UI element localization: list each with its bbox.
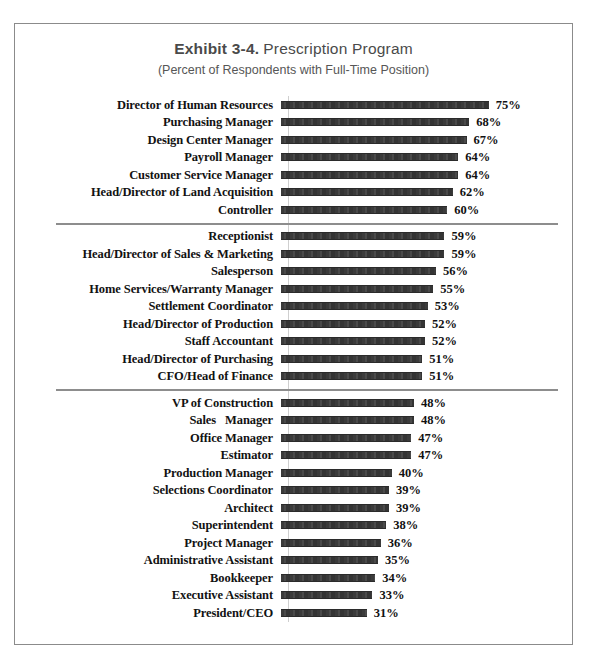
- bar-row: Design Center Manager67%: [15, 131, 572, 149]
- bar-track: 48%: [281, 412, 572, 430]
- bar-category-label: CFO/Head of Finance: [15, 370, 281, 383]
- bar-category-label: Customer Service Manager: [15, 169, 281, 182]
- bar-category-label: Settlement Coordinator: [15, 300, 281, 313]
- bar-value-label: 38%: [393, 519, 418, 532]
- bar-category-label: Superintendent: [15, 519, 281, 532]
- bar-row: Salesperson56%: [15, 263, 572, 281]
- bar-value-label: 36%: [388, 537, 413, 550]
- bar: [281, 188, 453, 196]
- bar: [281, 451, 411, 459]
- bar: [281, 372, 422, 380]
- bar-category-label: Executive Assistant: [15, 589, 281, 602]
- bar-category-label: Architect: [15, 502, 281, 515]
- bar-value-label: 40%: [399, 467, 424, 480]
- bar-value-label: 48%: [421, 397, 446, 410]
- bar-category-label: Estimator: [15, 449, 281, 462]
- bar-value-label: 47%: [418, 432, 443, 445]
- bar-track: 64%: [281, 149, 572, 167]
- bar-value-label: 59%: [451, 248, 476, 261]
- bar-row: Estimator47%: [15, 447, 572, 465]
- chart-subtitle: (Percent of Respondents with Full-Time P…: [15, 63, 572, 77]
- bar-row: Controller60%: [15, 201, 572, 219]
- bar: [281, 556, 378, 564]
- bar: [281, 539, 381, 547]
- bar-track: 40%: [281, 464, 572, 482]
- bar-category-label: Head/Director of Land Acquisition: [15, 186, 281, 199]
- bar: [281, 574, 375, 582]
- bar-row: Executive Assistant33%: [15, 587, 572, 605]
- bar-track: 60%: [281, 201, 572, 219]
- bar: [281, 171, 458, 179]
- bar-track: 64%: [281, 166, 572, 184]
- bar: [281, 434, 411, 442]
- bar-row: Production Manager40%: [15, 464, 572, 482]
- bar-track: 62%: [281, 184, 572, 202]
- bar-track: 51%: [281, 368, 572, 386]
- bar-category-label: Home Services/Warranty Manager: [15, 283, 281, 296]
- bar-category-label: Design Center Manager: [15, 134, 281, 147]
- bar-row: Head/Director of Production52%: [15, 315, 572, 333]
- bar-row: CFO/Head of Finance51%: [15, 368, 572, 386]
- bar-category-label: Production Manager: [15, 467, 281, 480]
- bar-category-label: Bookkeeper: [15, 572, 281, 585]
- bar-row: Staff Accountant52%: [15, 333, 572, 351]
- bar-row: Head/Director of Land Acquisition62%: [15, 184, 572, 202]
- chart-title: Exhibit 3-4.Prescription Program: [15, 40, 572, 58]
- bar-track: 67%: [281, 131, 572, 149]
- bar-category-label: Sales Manager: [15, 414, 281, 427]
- bar-row: Selections Coordinator39%: [15, 482, 572, 500]
- bar-category-label: VP of Construction: [15, 397, 281, 410]
- group-separator-line: [15, 385, 572, 394]
- bar-category-label: Receptionist: [15, 230, 281, 243]
- bar-category-label: Administrative Assistant: [15, 554, 281, 567]
- bar-row: Office Manager47%: [15, 429, 572, 447]
- bar-value-label: 68%: [476, 116, 501, 129]
- bar-category-label: Purchasing Manager: [15, 116, 281, 129]
- bar: [281, 136, 467, 144]
- bar-value-label: 51%: [429, 353, 454, 366]
- bar: [281, 302, 428, 310]
- bar-category-label: Project Manager: [15, 537, 281, 550]
- bar-category-label: Director of Human Resources: [15, 99, 281, 112]
- bar-value-label: 31%: [374, 607, 399, 620]
- bar-row: Settlement Coordinator53%: [15, 298, 572, 316]
- bar-value-label: 52%: [432, 335, 457, 348]
- bar: [281, 267, 436, 275]
- bar-row: Head/Director of Sales & Marketing59%: [15, 245, 572, 263]
- bar: [281, 469, 392, 477]
- bar-track: 59%: [281, 245, 572, 263]
- bar-category-label: Office Manager: [15, 432, 281, 445]
- bar-category-label: Head/Director of Production: [15, 318, 281, 331]
- bar-category-label: Staff Accountant: [15, 335, 281, 348]
- chart-title-exhibit: Exhibit 3-4.: [174, 40, 259, 57]
- bar-value-label: 59%: [451, 230, 476, 243]
- bar: [281, 320, 425, 328]
- bar-track: 33%: [281, 587, 572, 605]
- bar-row: Project Manager36%: [15, 534, 572, 552]
- bar-track: 47%: [281, 447, 572, 465]
- bar: [281, 591, 372, 599]
- bar-row: Superintendent38%: [15, 517, 572, 535]
- bar-value-label: 51%: [429, 370, 454, 383]
- bar-row: Payroll Manager64%: [15, 149, 572, 167]
- bar: [281, 153, 458, 161]
- bar-track: 47%: [281, 429, 572, 447]
- bar-track: 59%: [281, 228, 572, 246]
- bar-track: 75%: [281, 96, 572, 114]
- bar-row: Director of Human Resources75%: [15, 96, 572, 114]
- bar-track: 48%: [281, 394, 572, 412]
- chart-title-name: Prescription Program: [263, 40, 413, 57]
- chart-title-block: Exhibit 3-4.Prescription Program (Percen…: [15, 40, 572, 77]
- bar-track: 39%: [281, 482, 572, 500]
- bar-value-label: 55%: [440, 283, 465, 296]
- bar: [281, 250, 444, 258]
- bar: [281, 206, 447, 214]
- bar-row: Home Services/Warranty Manager55%: [15, 280, 572, 298]
- group-separator-line: [15, 219, 572, 228]
- bar-row: Bookkeeper34%: [15, 569, 572, 587]
- bar-row: VP of Construction48%: [15, 394, 572, 412]
- bar: [281, 101, 489, 109]
- bar: [281, 486, 389, 494]
- bar-category-label: Selections Coordinator: [15, 484, 281, 497]
- bar-value-label: 39%: [396, 502, 421, 515]
